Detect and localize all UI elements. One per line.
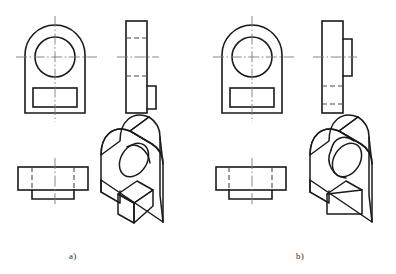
panel-a-top-view xyxy=(18,158,88,206)
iso-slot-outline xyxy=(327,190,362,214)
drawing-sheet: a) b) xyxy=(0,0,396,274)
top-view-tab xyxy=(32,190,74,199)
panel-a-side-view xyxy=(117,21,159,113)
iso-block-right-face xyxy=(134,190,153,223)
side-view-outline xyxy=(322,21,343,113)
panel-b-caption: b) xyxy=(296,251,304,261)
panel-b-side-view xyxy=(313,21,357,113)
iso-block-top-face xyxy=(118,181,153,203)
panel-a-isometric-view xyxy=(101,115,163,223)
side-view-boss xyxy=(343,39,352,76)
panel-b-top-view xyxy=(216,158,286,206)
top-view-tab xyxy=(229,190,272,199)
iso-boss-base-arc xyxy=(329,150,346,178)
top-view-outline xyxy=(216,167,286,190)
technical-drawing-canvas xyxy=(0,0,396,274)
top-view-outline xyxy=(18,167,88,190)
panel-a-front-view xyxy=(16,16,97,122)
iso-arch-top-surface xyxy=(130,117,163,164)
side-view-boss xyxy=(147,86,156,109)
panel-b-isometric-view xyxy=(310,115,372,222)
panel-a-caption: a) xyxy=(69,251,76,261)
iso-front-face xyxy=(101,129,163,222)
iso-arch-top-surface xyxy=(339,117,372,164)
panel-b-front-view xyxy=(213,16,294,122)
panel-b xyxy=(213,16,372,222)
side-view-outline xyxy=(126,21,147,113)
iso-top-back-edge xyxy=(310,115,358,155)
panel-a xyxy=(16,16,163,223)
